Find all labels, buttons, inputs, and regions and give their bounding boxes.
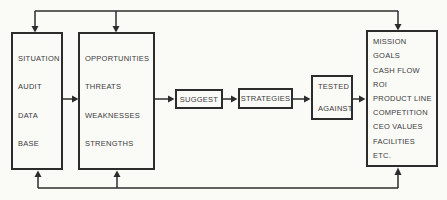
box-line: SITUATION — [18, 54, 61, 63]
arrowhead-tested-to-criteria — [359, 96, 366, 103]
box-line: ROI — [373, 80, 436, 89]
swot-box: OPPORTUNITIES THREATS WEAKNESSES STRENGT… — [78, 32, 155, 170]
box-line: THREATS — [85, 82, 153, 91]
arrowhead-bottom-into-criteria-box — [395, 168, 402, 176]
box-line: DATA — [18, 111, 61, 120]
arrowhead-swot-to-suggest — [168, 96, 175, 103]
box-label: SUGGEST — [180, 95, 218, 104]
box-line: TESTED — [318, 82, 351, 91]
box-line: CASH FLOW — [373, 66, 436, 75]
box-label: STRATEGIES — [241, 94, 290, 103]
box-line: AGAINST — [318, 104, 351, 113]
box-line: ETC. — [373, 151, 436, 160]
box-line: FACILITIES — [373, 137, 436, 146]
box-line: COMPETITION — [373, 108, 436, 117]
arrowhead-bottom-into-situation-box — [35, 171, 42, 178]
box-line: CEO VALUES — [373, 122, 436, 131]
box-line: OPPORTUNITIES — [85, 54, 153, 63]
box-line: GOALS — [373, 51, 436, 60]
flow-diagram: SITUATION AUDIT DATA BASE OPPORTUNITIES … — [0, 0, 447, 200]
strategies-box: STRATEGIES — [238, 88, 293, 109]
box-line: STRENGTHS — [85, 139, 153, 148]
box-line: WEAKNESSES — [85, 111, 153, 120]
arrowhead-suggest-to-strategies — [231, 96, 238, 103]
arrowhead-strategies-to-tested — [304, 96, 311, 103]
evaluation-criteria-box: MISSION GOALS CASH FLOW ROI PRODUCT LINE… — [366, 30, 438, 167]
box-line: PRODUCT LINE — [373, 94, 436, 103]
box-line: BASE — [18, 139, 61, 148]
box-line: AUDIT — [18, 82, 61, 91]
situation-audit-box: SITUATION AUDIT DATA BASE — [11, 32, 63, 170]
arrowhead-bottom-into-swot-box — [114, 171, 121, 178]
box-line: MISSION — [373, 37, 436, 46]
tested-against-box: TESTED AGAINST — [311, 75, 353, 120]
suggest-box: SUGGEST — [175, 89, 223, 109]
